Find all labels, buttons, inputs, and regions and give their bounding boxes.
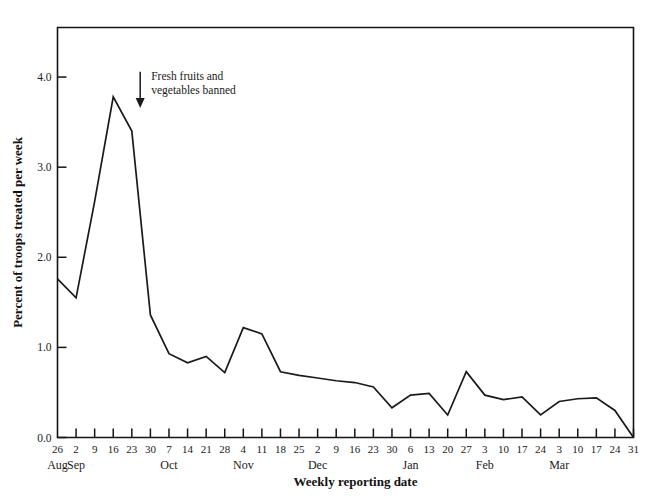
x-axis-tick-label: 16	[108, 443, 120, 455]
y-axis-tick-label: 4.0	[37, 71, 52, 83]
x-axis-month-label: Dec	[308, 458, 327, 472]
x-axis-tick-label: 27	[461, 443, 473, 455]
x-axis-tick-label: 25	[294, 443, 306, 455]
x-axis-tick-label: 16	[349, 443, 361, 455]
x-axis-month-label: Oct	[160, 458, 178, 472]
x-axis-tick-label: 18	[275, 443, 287, 455]
y-axis-tick-label: 0.0	[37, 432, 52, 444]
x-axis-tick-label: 3	[482, 443, 488, 455]
x-axis-tick-label: 4	[241, 443, 247, 455]
annotation-text-line-1: Fresh fruits and	[151, 70, 223, 82]
line-chart: 0.01.02.03.04.0Percent of troops treated…	[0, 0, 665, 500]
x-axis-tick-label: 30	[145, 443, 157, 455]
x-axis-tick-label: 7	[166, 443, 172, 455]
x-axis-tick-label: 14	[182, 443, 194, 455]
y-axis-tick-label: 2.0	[37, 251, 52, 263]
x-axis-tick-label: 10	[498, 443, 510, 455]
data-series-line	[58, 97, 634, 438]
x-axis-tick-label: 20	[442, 443, 454, 455]
figure-container: 0.01.02.03.04.0Percent of troops treated…	[0, 0, 665, 500]
axis-frame	[58, 28, 634, 438]
x-axis-tick-label: 31	[628, 443, 639, 455]
x-axis-tick-label: 10	[572, 443, 584, 455]
annotation-text-line-2: vegetables banned	[151, 84, 236, 97]
y-axis-tick-label: 1.0	[37, 341, 52, 353]
x-axis-tick-label: 30	[386, 443, 398, 455]
x-axis-tick-label: 28	[219, 443, 231, 455]
x-axis-month-label: Sep	[67, 458, 85, 472]
x-axis-tick-label: 11	[257, 443, 268, 455]
x-axis-tick-label: 2	[73, 443, 79, 455]
x-axis-tick-label: 3	[556, 443, 562, 455]
x-axis-month-label: Nov	[233, 458, 254, 472]
x-axis-tick-label: 17	[517, 443, 529, 455]
y-axis-title: Percent of troops treated per week	[10, 136, 25, 328]
x-axis-month-label: Mar	[549, 458, 569, 472]
x-axis-tick-label: 9	[333, 443, 339, 455]
x-axis-month-label: Jan	[403, 458, 419, 472]
x-axis-tick-label: 24	[535, 443, 547, 455]
x-axis-title: Weekly reporting date	[294, 474, 418, 489]
x-axis-month-label: Aug	[47, 458, 68, 472]
x-axis-tick-label: 6	[408, 443, 414, 455]
x-axis-tick-label: 23	[368, 443, 380, 455]
y-axis-tick-label: 3.0	[37, 161, 52, 173]
x-axis-tick-label: 24	[609, 443, 621, 455]
x-axis-tick-label: 2	[315, 443, 321, 455]
annotation-arrow-head	[136, 98, 145, 108]
x-axis-tick-label: 23	[126, 443, 138, 455]
x-axis-tick-label: 13	[424, 443, 436, 455]
x-axis-month-label: Feb	[476, 458, 494, 472]
x-axis-tick-label: 21	[201, 443, 212, 455]
x-axis-tick-label: 9	[92, 443, 98, 455]
x-axis-tick-label: 17	[591, 443, 603, 455]
x-axis-tick-label: 26	[52, 443, 64, 455]
